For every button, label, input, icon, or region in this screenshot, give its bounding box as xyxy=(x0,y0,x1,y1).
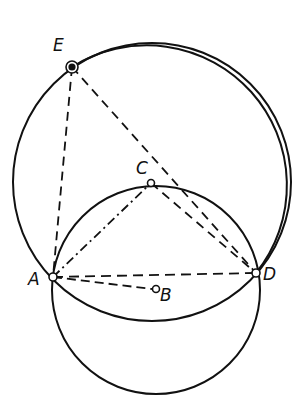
point-d-marker xyxy=(252,269,260,277)
point-b-marker xyxy=(153,286,160,293)
segment-a-d xyxy=(53,273,256,277)
point-a-marker xyxy=(49,273,57,281)
point-c-marker xyxy=(148,180,155,187)
label-a: A xyxy=(28,271,40,288)
arc-e-to-d xyxy=(72,45,287,273)
label-b: B xyxy=(160,287,172,304)
geometry-diagram: E C A D B xyxy=(0,0,306,409)
point-e-dot xyxy=(69,64,75,70)
segment-e-d xyxy=(72,67,256,273)
diagram-canvas xyxy=(0,0,306,409)
label-d: D xyxy=(263,266,276,283)
segment-a-c xyxy=(53,183,151,277)
label-c: C xyxy=(136,160,148,177)
label-e: E xyxy=(53,37,64,54)
segment-a-b xyxy=(53,277,152,289)
